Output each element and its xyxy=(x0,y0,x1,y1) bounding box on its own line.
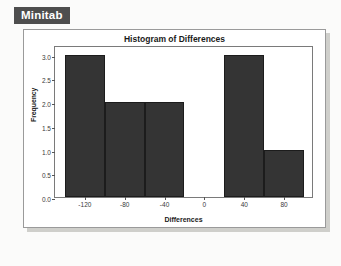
y-axis-tick-label: 0.5 xyxy=(42,172,51,179)
y-axis-tick-label: 1.5 xyxy=(42,124,51,131)
histogram-bar xyxy=(105,102,145,197)
histogram-bar xyxy=(65,55,105,198)
y-axis-tick-label: 2.0 xyxy=(42,101,51,108)
x-axis-tick-label: 80 xyxy=(280,201,287,208)
x-axis-tick-label: 0 xyxy=(203,201,207,208)
y-axis-tick-label: 1.0 xyxy=(42,148,51,155)
x-axis-tick-label: -120 xyxy=(78,201,91,208)
histogram-bar xyxy=(145,102,185,197)
minitab-graph-window: Histogram of Differences Frequency 0.00.… xyxy=(23,29,326,228)
x-axis-tick xyxy=(204,197,205,200)
y-axis-tick xyxy=(52,199,55,200)
minitab-badge: Minitab xyxy=(14,7,70,24)
y-axis-title: Frequency xyxy=(30,88,37,122)
y-axis-tick xyxy=(52,152,55,153)
y-axis-tick xyxy=(52,57,55,58)
y-axis-tick-label: 0.0 xyxy=(42,196,51,203)
x-axis-tick xyxy=(85,197,86,200)
histogram-bar xyxy=(224,55,264,198)
x-axis-tick-label: -80 xyxy=(120,201,129,208)
x-axis-tick xyxy=(165,197,166,200)
y-axis-tick xyxy=(52,104,55,105)
x-axis-title: Differences xyxy=(54,216,313,223)
y-axis-tick xyxy=(52,80,55,81)
y-axis-tick xyxy=(52,128,55,129)
x-axis-tick xyxy=(244,197,245,200)
plot-area: 0.00.51.01.52.02.53.0-120-80-4004080 xyxy=(55,47,312,197)
x-axis-tick-label: 40 xyxy=(241,201,248,208)
y-axis-tick-label: 2.5 xyxy=(42,77,51,84)
histogram-bar xyxy=(264,150,304,198)
plot-frame: 0.00.51.01.52.02.53.0-120-80-4004080 xyxy=(54,46,313,198)
chart-title: Histogram of Differences xyxy=(24,34,325,44)
x-axis-tick xyxy=(284,197,285,200)
y-axis-tick-label: 3.0 xyxy=(42,53,51,60)
x-axis-tick xyxy=(125,197,126,200)
x-axis-tick-label: -40 xyxy=(160,201,169,208)
y-axis-tick xyxy=(52,175,55,176)
screenshot-root: Minitab Histogram of Differences Frequen… xyxy=(0,0,341,266)
